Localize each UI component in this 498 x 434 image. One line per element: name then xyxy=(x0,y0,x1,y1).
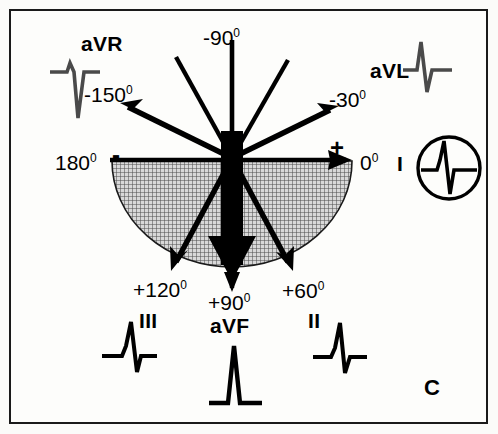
angle-label-minus-30: -300 xyxy=(329,89,366,110)
lead-label-aVF: aVF xyxy=(210,315,249,336)
panel-label: C xyxy=(424,377,440,399)
figure-frame xyxy=(9,9,488,424)
angle-label-plus-90: +900 xyxy=(208,292,250,313)
angle-label-180: 1800 xyxy=(55,152,97,173)
negative-pole-symbol: - xyxy=(112,148,120,162)
lead-label-I: I xyxy=(397,153,403,174)
lead-label-aVL: aVL xyxy=(370,60,409,81)
angle-label-0: 00 xyxy=(360,152,378,173)
angle-label-plus-60: +600 xyxy=(282,280,324,301)
angle-label-minus-150: -1500 xyxy=(84,84,133,105)
lead-label-II: II xyxy=(308,310,320,331)
lead-label-aVR: aVR xyxy=(81,33,123,54)
angle-label-plus-120: +1200 xyxy=(133,279,187,300)
lead-label-III: III xyxy=(139,310,157,331)
positive-pole-symbol: + xyxy=(330,141,344,155)
ecg-axis-figure: aVR -1500 -900 -300 aVL 1800 - + 00 I +1… xyxy=(0,0,498,434)
angle-label-minus-90: -900 xyxy=(203,27,240,48)
